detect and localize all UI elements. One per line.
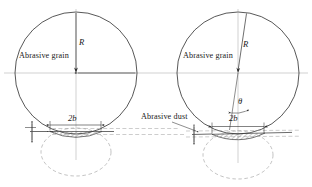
left-radius-label: R	[79, 38, 84, 47]
theta-angle-label: θ	[238, 97, 242, 106]
right-radius-label: R	[243, 40, 248, 49]
left-panel-group	[15, 9, 186, 176]
right-panel-group	[177, 9, 300, 179]
left-contact-width-label: 2b	[68, 114, 77, 123]
right-grain-label: Abrasive grain	[183, 52, 233, 60]
abrasive-dust-leader	[172, 122, 196, 131]
abrasive-dust-label: Abrasive dust	[141, 113, 188, 121]
figure-container: Abrasive grain R 2b Abrasive grain R 2b …	[0, 0, 312, 187]
right-surface-line-right	[265, 132, 292, 133]
right-surface-line-outer	[192, 134, 212, 135]
right-contact-width-label: 2b	[229, 114, 238, 123]
right-dashed-surface-upper	[186, 130, 300, 131]
diagram-canvas	[0, 0, 312, 187]
left-grain-label: Abrasive grain	[19, 52, 69, 60]
